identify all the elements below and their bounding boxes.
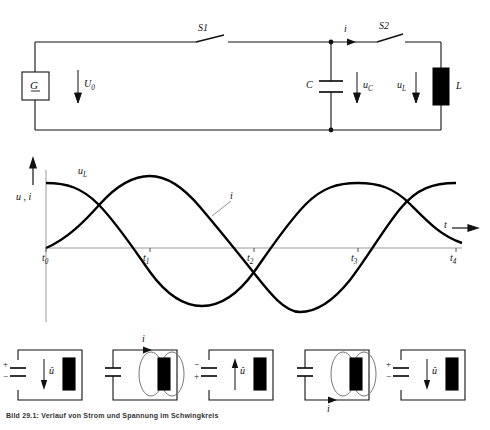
switch-s2-blade[interactable]	[377, 34, 403, 42]
arrow-uc-head	[354, 93, 361, 103]
plot-x-axis-arrow	[452, 225, 478, 231]
phase-diagram-3	[201, 350, 273, 400]
phase-diagram-4	[297, 350, 376, 404]
phase3-minus-sign: −	[194, 360, 199, 369]
tick-label-t4: t4	[450, 253, 456, 266]
phase1-plus-sign: +	[3, 360, 8, 369]
figure-caption: Bild 29.1: Verlauf von Strom und Spannun…	[6, 412, 484, 428]
current-label-i: i	[344, 24, 347, 34]
curve-current-i	[46, 176, 456, 312]
phase-diagram-5	[393, 350, 465, 400]
plot-ticks	[46, 248, 456, 252]
phase5-minus-sign: −	[386, 372, 391, 381]
capacitor-label: C	[306, 80, 313, 90]
capacitor-voltage-label: uC	[363, 80, 373, 93]
switch-s2-label: S2	[379, 21, 389, 31]
leader-line-i	[212, 201, 231, 216]
curve-label-i: i	[230, 191, 233, 201]
plot-y-axis-arrow	[30, 158, 36, 185]
phase3-plus-sign: +	[194, 372, 199, 381]
phase1-minus-sign: −	[3, 372, 8, 381]
figure-lc-oscillating-circuit	[0, 0, 490, 430]
phase5-voltage-label: û	[432, 366, 437, 376]
tick-label-t0: t0	[42, 253, 48, 266]
switch-s1-blade[interactable]	[196, 35, 224, 42]
phase2-current-label: i	[142, 334, 145, 344]
plot-x-axis-label: t	[444, 220, 447, 230]
phase-diagram-2	[105, 346, 184, 400]
generator-label: G	[30, 80, 38, 91]
curve-voltage-ul-tail	[358, 183, 462, 243]
node-dot-top	[329, 40, 334, 45]
phase3-voltage-label: û	[240, 366, 245, 376]
phase5-plus-sign: +	[386, 360, 391, 369]
phase1-voltage-label: û	[49, 366, 54, 376]
tick-label-t2: t2	[247, 253, 253, 266]
tick-label-t1: t1	[143, 253, 149, 266]
arrow-ul-head	[413, 93, 420, 103]
plot-y-axis-label: u , i	[16, 192, 31, 202]
curve-voltage-ul	[46, 183, 358, 306]
inductor-label: L	[456, 81, 462, 91]
node-dot-bottom	[329, 128, 334, 133]
waveform-plot	[30, 158, 478, 322]
inductor-symbol	[433, 68, 449, 105]
curve-label-ul: uL	[78, 166, 87, 179]
tick-label-t3: t3	[351, 253, 357, 266]
current-arrow-i	[347, 38, 356, 45]
main-circuit	[35, 34, 441, 130]
inductor-voltage-label: uL	[397, 80, 406, 93]
phase-diagram-1	[10, 350, 82, 400]
arrow-u0-head	[75, 93, 82, 103]
source-voltage-label: U0	[84, 79, 95, 92]
switch-s1-label: S1	[198, 23, 208, 33]
